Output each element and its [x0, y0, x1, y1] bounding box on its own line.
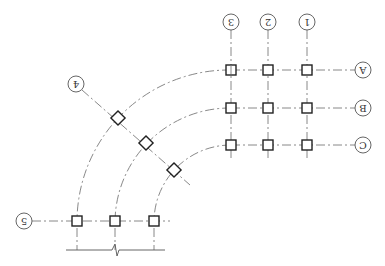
- svg-text:4: 4: [73, 79, 79, 90]
- axis-grid-drawing: 1 2 3 A B C 4 5: [0, 0, 385, 266]
- arc-axis-a: [77, 70, 231, 221]
- axis-bubble-2: 2: [260, 14, 276, 30]
- axis-bubble-1: 1: [299, 14, 315, 30]
- svg-text:3: 3: [228, 17, 234, 28]
- axis-bubble-a: A: [355, 62, 371, 78]
- svg-text:5: 5: [21, 216, 27, 227]
- dimension-line: [66, 244, 165, 256]
- svg-text:A: A: [359, 65, 368, 76]
- column-markers-diagonal: [111, 111, 181, 177]
- axis-bubble-b: B: [355, 100, 371, 116]
- axis-bubble-3: 3: [223, 14, 239, 30]
- axis-bubble-5: 5: [16, 213, 32, 229]
- svg-text:B: B: [359, 103, 366, 114]
- grid-canvas: 1 2 3 A B C 4 5: [0, 0, 385, 266]
- column-markers-straight: [226, 65, 312, 150]
- svg-text:C: C: [359, 140, 367, 151]
- axis-bubble-c: C: [355, 137, 371, 153]
- axis-bubble-4: 4: [68, 76, 84, 92]
- svg-text:2: 2: [265, 17, 271, 28]
- svg-text:1: 1: [304, 17, 310, 28]
- arc-axis-c: [154, 145, 231, 221]
